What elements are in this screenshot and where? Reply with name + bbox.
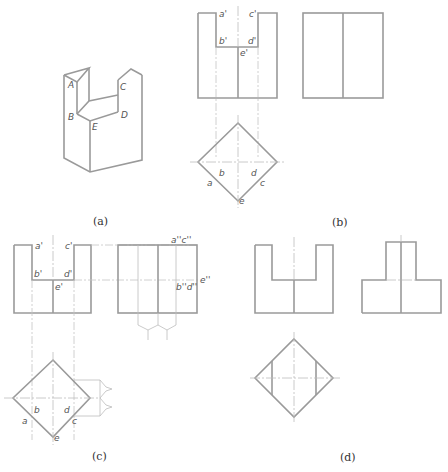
engineering-drawing: A C B D E (a) a' c' b' d' e' a b d c e (… (0, 0, 448, 472)
label-C: C (120, 82, 127, 92)
label-d: d (251, 168, 257, 178)
label-c-prime: c' (249, 9, 256, 19)
label-c: c (260, 178, 265, 188)
label-d-prime: d' (248, 36, 256, 46)
label-c-e-prime: e' (55, 282, 63, 292)
label-c-b: b (34, 405, 40, 415)
label-ac-double-prime: a''c'' (171, 235, 191, 245)
label-a-prime: a' (219, 9, 227, 19)
label-D: D (121, 110, 128, 120)
label-b: b (219, 168, 225, 178)
label-B: B (68, 112, 74, 122)
label-e-double-prime: e'' (200, 275, 211, 285)
label-c-d: d (64, 405, 70, 415)
caption-b: (b) (332, 216, 348, 229)
label-c-c-prime: c' (65, 241, 72, 251)
label-c-d-prime: d' (64, 269, 72, 279)
label-c-b-prime: b' (34, 269, 42, 279)
panel-b: a' c' b' d' e' a b d c e (b) (190, 6, 383, 229)
label-A: A (67, 80, 74, 90)
label-c-e: e (54, 433, 60, 443)
panel-d: (d) (250, 235, 441, 464)
label-c-a: a (22, 416, 28, 426)
label-E: E (92, 122, 98, 132)
caption-c: (c) (92, 450, 107, 463)
caption-d: (d) (340, 451, 356, 464)
label-c-a-prime: a' (35, 241, 43, 251)
panel-a-isometric: A C B D E (a) (64, 68, 142, 228)
caption-a: (a) (93, 215, 108, 228)
label-e-prime: e' (240, 48, 248, 58)
label-c-c: c (72, 416, 77, 426)
panel-c: a' c' b' d' e' a''c'' b''d'' e'' a b d c… (4, 235, 211, 463)
label-a: a (207, 178, 213, 188)
label-bd-double-prime: b''d'' (176, 282, 197, 292)
label-b-prime: b' (219, 36, 227, 46)
label-e: e (239, 196, 245, 206)
